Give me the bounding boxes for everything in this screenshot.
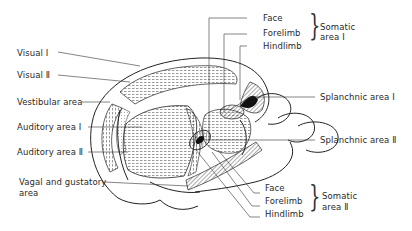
label-somatic-2-forelimb: Forelimb: [265, 196, 303, 206]
auditory-1-region: [123, 106, 197, 178]
label-somatic-2-face: Face: [265, 183, 285, 193]
label-somatic-1-face: Face: [263, 13, 283, 23]
label-somatic-area-2-line1: Somatic: [322, 191, 357, 201]
label-somatic-2-hindlimb: Hindlimb: [265, 209, 304, 219]
label-auditory-area-2: Auditory area Ⅱ: [17, 147, 83, 157]
label-splanchnic-area-2: Splanchnic area Ⅱ: [320, 135, 396, 145]
label-somatic-area-1-line2: area Ⅰ: [320, 32, 345, 42]
brace-somatic-1: }: [309, 10, 320, 40]
label-visual-1: Visual Ⅰ: [17, 48, 48, 58]
label-splanchnic-area-1: Splanchnic area Ⅰ: [320, 92, 395, 102]
label-vagal-gustatory: Vagal and gustatory: [19, 177, 106, 187]
label-somatic-area-1-line1: Somatic: [320, 22, 355, 32]
label-somatic-1-hindlimb: Hindlimb: [263, 41, 302, 51]
brace-somatic-2: }: [309, 181, 320, 211]
label-auditory-area-1: Auditory area Ⅰ: [17, 122, 81, 132]
label-vagal-gustatory-area: area: [19, 188, 38, 198]
label-somatic-1-forelimb: Forelimb: [263, 28, 301, 38]
label-vestibular-area: Vestibular area: [17, 97, 83, 107]
label-somatic-area-2-line2: area Ⅱ: [322, 202, 348, 212]
label-visual-2: Visual Ⅱ: [17, 70, 50, 80]
